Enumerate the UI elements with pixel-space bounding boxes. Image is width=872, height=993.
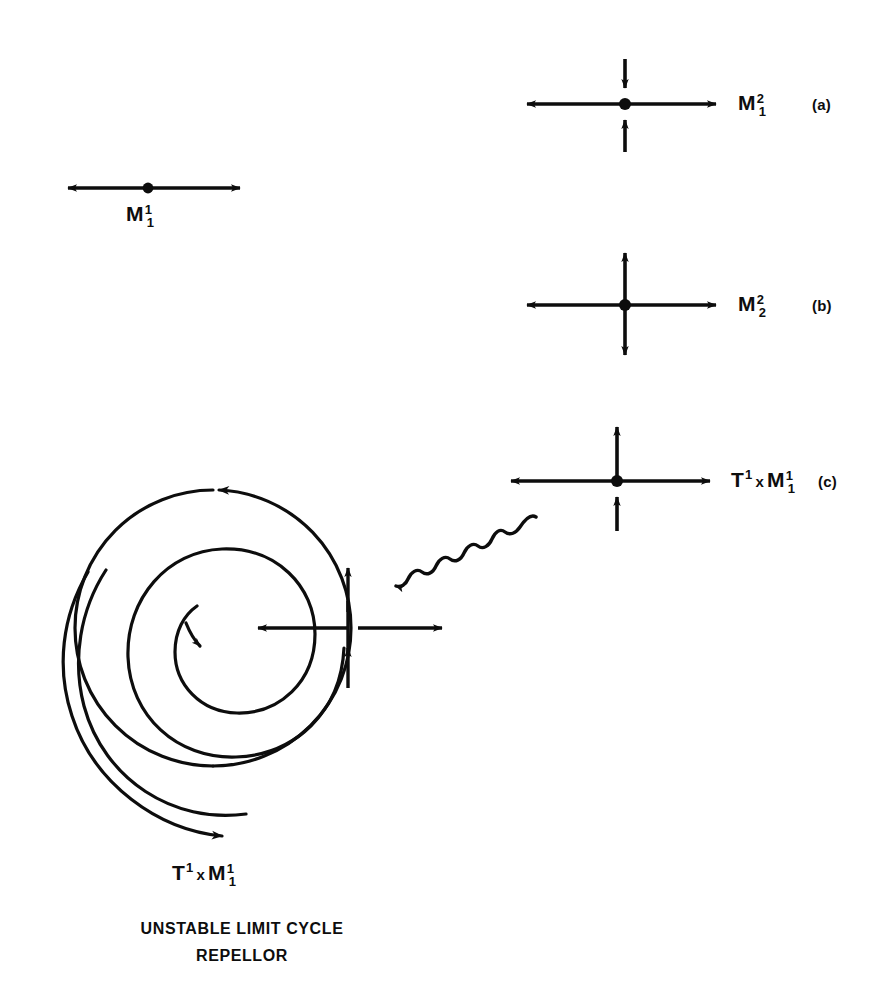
panel-b-label-sub: 2 bbox=[757, 306, 766, 319]
limit-cycle-label-indices: 1 1 bbox=[227, 862, 236, 889]
fixed-point-dot bbox=[143, 183, 154, 194]
wavy-path bbox=[396, 516, 536, 587]
panel-c-label: T 1 x M 1 1 bbox=[731, 469, 795, 503]
limit-cycle-label-base2: M bbox=[208, 862, 226, 883]
outer-spiral-path-2 bbox=[79, 570, 246, 815]
figure-canvas: M 1 1 M 2 1 (a) M 2 2 (b) T 1 x M 1 1 (c… bbox=[0, 0, 872, 993]
manifold-line-label-indices: 1 1 bbox=[145, 203, 154, 230]
fixed-point-dot bbox=[619, 98, 631, 110]
fixed-point-dot bbox=[611, 475, 623, 487]
panel-b-label-indices: 2 2 bbox=[757, 293, 766, 320]
panel-c-label-sup: 1 bbox=[745, 468, 752, 481]
manifold-line-m11 bbox=[68, 183, 240, 194]
inner-spiral-inward bbox=[128, 549, 344, 757]
manifold-line-label-sup: 1 bbox=[145, 203, 152, 216]
panel-c-label-times: x bbox=[752, 474, 767, 489]
manifold-line-label-sub: 1 bbox=[145, 216, 154, 229]
panel-c-label-base2: M bbox=[767, 469, 785, 490]
panel-a-label-base: M bbox=[738, 92, 756, 113]
caption-line-2: REPELLOR bbox=[108, 948, 376, 964]
limit-cycle-label-times: x bbox=[193, 867, 208, 882]
panel-c-tag: (c) bbox=[818, 474, 837, 489]
inner-spiral-path bbox=[128, 549, 344, 757]
inner-spiral-arrow bbox=[186, 623, 200, 646]
limit-cycle-label: T 1 x M 1 1 bbox=[172, 862, 236, 896]
panel-a-cross bbox=[527, 59, 716, 152]
limit-cycle-label-sub2: 1 bbox=[227, 875, 236, 888]
outer-spiral-outward bbox=[63, 570, 246, 836]
cycle-left-half bbox=[75, 490, 213, 766]
panel-a-label: M 2 1 bbox=[738, 92, 766, 126]
panel-c-label-sup2: 1 bbox=[786, 469, 793, 482]
panel-a-label-indices: 2 1 bbox=[757, 92, 766, 119]
panel-a-tag: (a) bbox=[812, 97, 831, 112]
panel-b-label-base: M bbox=[738, 293, 756, 314]
wavy-connector-arrow bbox=[396, 516, 536, 587]
panel-a-label-sub: 1 bbox=[757, 105, 766, 118]
panel-c-label-sub2: 1 bbox=[786, 482, 795, 495]
limit-cycle-label-sup: 1 bbox=[186, 861, 193, 874]
manifold-line-label: M 1 1 bbox=[126, 203, 154, 237]
caption-line-1: UNSTABLE LIMIT CYCLE bbox=[108, 921, 376, 937]
panel-a-label-sup: 2 bbox=[757, 92, 764, 105]
panel-b-tag: (b) bbox=[812, 298, 832, 313]
panel-c-cross bbox=[511, 427, 710, 531]
limit-cycle-label-sup2: 1 bbox=[227, 862, 234, 875]
fixed-point-dot bbox=[619, 299, 631, 311]
panel-b-cross bbox=[527, 253, 716, 355]
panel-c-label-indices: 1 1 bbox=[786, 469, 795, 496]
panel-b-label-sup: 2 bbox=[757, 293, 764, 306]
panel-c-label-base: T bbox=[731, 469, 744, 490]
panel-b-label: M 2 2 bbox=[738, 293, 766, 327]
manifold-line-label-base: M bbox=[126, 203, 144, 224]
limit-cycle-label-base: T bbox=[172, 862, 185, 883]
